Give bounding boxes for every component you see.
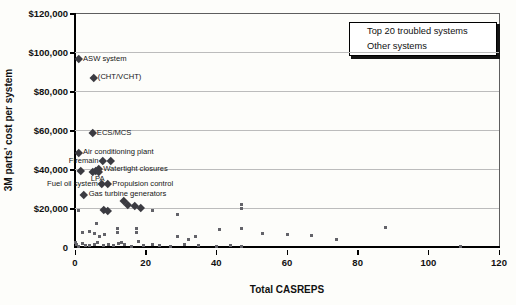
x-tick-mark	[287, 250, 289, 255]
point-annotation: Firemain	[69, 157, 99, 165]
point-annotation: Watertight closures	[103, 165, 168, 173]
y-tick-label: 0	[0, 242, 68, 253]
point-annotation: Propulsion control	[112, 180, 173, 188]
x-tick-label: 40	[203, 257, 229, 268]
y-tick-label: $60,000	[0, 125, 68, 136]
data-point-other	[77, 209, 80, 212]
data-point-other	[240, 203, 243, 206]
x-tick-label: 0	[62, 257, 88, 268]
data-point-other	[151, 243, 154, 246]
data-point-other	[310, 234, 313, 237]
x-tick-mark	[428, 250, 430, 255]
square-marker-icon	[355, 45, 367, 48]
y-tick-mark	[70, 91, 74, 93]
data-point-other	[240, 207, 243, 210]
data-point-other	[107, 243, 110, 246]
data-point-other	[130, 245, 133, 248]
data-point-other	[96, 241, 99, 244]
x-tick-label: 80	[345, 257, 371, 268]
y-tick-label: $100,000	[0, 47, 68, 58]
x-tick-label: 60	[274, 257, 300, 268]
y-tick-mark	[70, 52, 74, 54]
data-point-other	[98, 235, 101, 238]
point-annotation: ECS/MCS	[97, 129, 132, 137]
legend-label-top20: Top 20 troubled systems	[367, 26, 468, 37]
data-point-other	[240, 245, 243, 248]
point-annotation: (CHT/VCHT)	[98, 73, 141, 81]
data-point-other	[112, 244, 115, 247]
data-point-other	[116, 227, 119, 230]
data-point-other	[197, 244, 200, 247]
scatter-chart: 3M parts' cost per system Total CASREPS …	[0, 0, 516, 305]
data-point-other	[183, 243, 186, 246]
x-tick-mark	[145, 250, 147, 255]
x-tick-mark	[499, 250, 501, 255]
y-tick-label: $20,000	[0, 203, 68, 214]
x-tick-label: 120	[486, 257, 512, 268]
data-point-other	[95, 222, 98, 225]
data-point-other	[88, 244, 91, 247]
data-point-other	[123, 243, 126, 246]
gridline	[75, 52, 499, 53]
legend-label-other: Other systems	[367, 41, 427, 52]
data-point-other	[384, 226, 387, 229]
y-tick-mark	[70, 130, 74, 132]
data-point-other	[176, 235, 179, 238]
data-point-other	[81, 231, 84, 234]
y-tick-label: $120,000	[0, 8, 68, 19]
data-point-other	[335, 238, 338, 241]
diamond-marker-icon	[355, 29, 367, 35]
data-point-other	[176, 213, 179, 216]
data-point-other	[117, 242, 120, 245]
y-tick-label: $80,000	[0, 86, 68, 97]
data-point-other	[135, 231, 138, 234]
legend-item-top20: Top 20 troubled systems	[355, 26, 491, 37]
y-tick-label: $40,000	[0, 164, 68, 175]
data-point-other	[102, 244, 105, 247]
data-point-other	[194, 235, 197, 238]
x-tick-label: 100	[415, 257, 441, 268]
gridline	[75, 91, 499, 92]
y-tick-mark	[70, 208, 74, 210]
legend-item-other: Other systems	[355, 41, 491, 52]
data-point-other	[187, 238, 190, 241]
point-annotation: Fuel oil system	[47, 180, 98, 188]
data-point-other	[88, 230, 91, 233]
point-annotation: ASW system	[83, 55, 126, 63]
data-point-other	[116, 231, 119, 234]
data-point-other	[135, 227, 138, 230]
data-point-other	[229, 244, 232, 247]
legend: Top 20 troubled systems Other systems	[349, 22, 497, 56]
point-annotation: Gas turbine generators	[89, 190, 167, 198]
data-point-other	[137, 240, 140, 243]
data-point-other	[218, 228, 221, 231]
x-axis-title: Total CASREPS	[75, 284, 499, 295]
data-point-other	[158, 244, 161, 247]
x-tick-label: 20	[133, 257, 159, 268]
data-point-other	[151, 209, 154, 212]
data-point-other	[286, 233, 289, 236]
x-tick-mark	[357, 250, 359, 255]
y-tick-mark	[70, 13, 74, 15]
data-point-other	[261, 232, 264, 235]
data-point-other	[240, 227, 243, 230]
data-point-other	[215, 245, 218, 248]
data-point-other	[93, 232, 96, 235]
data-point-other	[459, 245, 462, 248]
x-axis-line	[74, 246, 500, 249]
data-point-other	[103, 233, 106, 236]
gridline	[75, 130, 499, 131]
x-tick-mark	[216, 250, 218, 255]
y-tick-mark	[70, 169, 74, 171]
data-point-other	[169, 245, 172, 248]
data-point-other	[142, 244, 145, 247]
x-tick-mark	[75, 250, 77, 255]
